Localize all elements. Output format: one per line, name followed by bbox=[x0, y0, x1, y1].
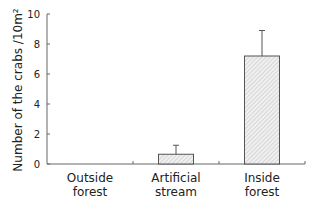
y-tick-label: 4 bbox=[34, 99, 40, 110]
bars bbox=[159, 31, 280, 165]
x-tick-label: stream bbox=[155, 185, 197, 199]
y-tick-label: 10 bbox=[27, 9, 40, 20]
x-tick-label: forest bbox=[73, 185, 108, 199]
y-tick-label: 6 bbox=[34, 69, 40, 80]
y-axis-title: Number of the crabs /10m² bbox=[11, 8, 25, 171]
x-tick-label: Inside bbox=[244, 171, 280, 185]
bar-1 bbox=[159, 154, 194, 164]
y-tick-label: 0 bbox=[34, 159, 40, 170]
x-tick-label: forest bbox=[245, 185, 280, 199]
bar-chart: 0246810 OutsideforestArtificialstreamIns… bbox=[0, 0, 317, 206]
y-tick-label: 2 bbox=[34, 129, 40, 140]
x-tick-label: Artificial bbox=[151, 171, 200, 185]
bar-2 bbox=[245, 56, 280, 164]
x-tick-label: Outside bbox=[67, 171, 113, 185]
labels: OutsideforestArtificialstreamInsidefores… bbox=[67, 171, 280, 199]
y-tick-label: 8 bbox=[34, 39, 40, 50]
